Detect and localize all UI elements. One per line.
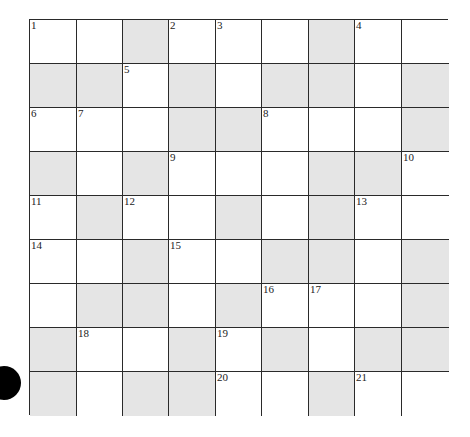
answer-cell[interactable] (77, 152, 123, 196)
answer-cell[interactable] (123, 328, 169, 372)
shaded-cell (309, 196, 355, 240)
clue-number: 16 (263, 284, 274, 295)
answer-cell[interactable]: 9 (169, 152, 216, 196)
answer-cell[interactable]: 2 (169, 20, 216, 64)
answer-cell[interactable] (355, 240, 402, 284)
shaded-cell (402, 328, 449, 372)
shaded-cell (169, 372, 216, 416)
answer-cell[interactable] (262, 20, 309, 64)
shaded-cell (402, 64, 449, 108)
shaded-cell (309, 372, 355, 416)
shaded-cell (309, 64, 355, 108)
shaded-cell (216, 108, 262, 152)
shaded-cell (355, 328, 402, 372)
shaded-cell (77, 196, 123, 240)
shaded-cell (402, 108, 449, 152)
shaded-cell (402, 284, 449, 328)
shaded-cell (123, 372, 169, 416)
clue-number: 14 (31, 240, 42, 251)
shaded-cell (309, 240, 355, 284)
answer-cell[interactable] (355, 64, 402, 108)
answer-cell[interactable]: 14 (30, 240, 77, 284)
answer-cell[interactable]: 20 (216, 372, 262, 416)
answer-cell[interactable]: 17 (309, 284, 355, 328)
answer-cell[interactable]: 18 (77, 328, 123, 372)
shaded-cell (309, 152, 355, 196)
shaded-cell (262, 64, 309, 108)
clue-number: 18 (78, 328, 89, 339)
shaded-cell (355, 152, 402, 196)
answer-cell[interactable]: 1 (30, 20, 77, 64)
shaded-cell (262, 328, 309, 372)
answer-cell[interactable] (77, 240, 123, 284)
shaded-cell (123, 20, 169, 64)
answer-cell[interactable]: 10 (402, 152, 449, 196)
clue-number: 7 (78, 108, 84, 119)
answer-cell[interactable]: 16 (262, 284, 309, 328)
shaded-cell (169, 108, 216, 152)
shaded-cell (262, 240, 309, 284)
shaded-cell (30, 328, 77, 372)
clue-number: 20 (217, 372, 228, 383)
shaded-cell (169, 328, 216, 372)
clue-number: 5 (124, 64, 130, 75)
answer-cell[interactable] (30, 284, 77, 328)
answer-cell[interactable]: 4 (355, 20, 402, 64)
answer-cell[interactable]: 11 (30, 196, 77, 240)
answer-cell[interactable] (355, 108, 402, 152)
answer-cell[interactable] (169, 284, 216, 328)
clue-number: 9 (170, 152, 176, 163)
shaded-cell (169, 64, 216, 108)
clue-number: 19 (217, 328, 228, 339)
black-circle-marker (0, 366, 21, 400)
answer-cell[interactable] (216, 64, 262, 108)
clue-number: 1 (31, 20, 37, 31)
shaded-cell (123, 152, 169, 196)
answer-cell[interactable] (169, 196, 216, 240)
answer-cell[interactable] (309, 328, 355, 372)
shaded-cell (30, 152, 77, 196)
clue-number: 6 (31, 108, 37, 119)
answer-cell[interactable]: 19 (216, 328, 262, 372)
answer-cell[interactable] (262, 196, 309, 240)
shaded-cell (402, 240, 449, 284)
answer-cell[interactable]: 7 (77, 108, 123, 152)
answer-cell[interactable]: 13 (355, 196, 402, 240)
shaded-cell (216, 196, 262, 240)
shaded-cell (123, 284, 169, 328)
answer-cell[interactable] (77, 20, 123, 64)
shaded-cell (216, 284, 262, 328)
answer-cell[interactable]: 12 (123, 196, 169, 240)
answer-cell[interactable]: 3 (216, 20, 262, 64)
answer-cell[interactable]: 21 (355, 372, 402, 416)
clue-number: 2 (170, 20, 176, 31)
clue-number: 21 (356, 372, 367, 383)
clue-number: 17 (310, 284, 321, 295)
answer-cell[interactable] (216, 240, 262, 284)
clue-number: 15 (170, 240, 181, 251)
answer-cell[interactable]: 5 (123, 64, 169, 108)
answer-cell[interactable]: 6 (30, 108, 77, 152)
crossword-grid: 123456789101112131415161718192021 (29, 19, 448, 415)
answer-cell[interactable] (402, 20, 449, 64)
answer-cell[interactable] (216, 152, 262, 196)
clue-number: 11 (31, 196, 42, 207)
clue-number: 4 (356, 20, 362, 31)
shaded-cell (309, 20, 355, 64)
answer-cell[interactable]: 8 (262, 108, 309, 152)
answer-cell[interactable] (262, 372, 309, 416)
answer-cell[interactable] (123, 108, 169, 152)
shaded-cell (77, 64, 123, 108)
answer-cell[interactable] (262, 152, 309, 196)
clue-number: 3 (217, 20, 223, 31)
shaded-cell (123, 240, 169, 284)
answer-cell[interactable] (309, 108, 355, 152)
answer-cell[interactable] (402, 196, 449, 240)
clue-number: 10 (403, 152, 414, 163)
answer-cell[interactable] (402, 372, 449, 416)
clue-number: 13 (356, 196, 367, 207)
answer-cell[interactable] (77, 372, 123, 416)
answer-cell[interactable]: 15 (169, 240, 216, 284)
answer-cell[interactable] (355, 284, 402, 328)
shaded-cell (30, 372, 77, 416)
